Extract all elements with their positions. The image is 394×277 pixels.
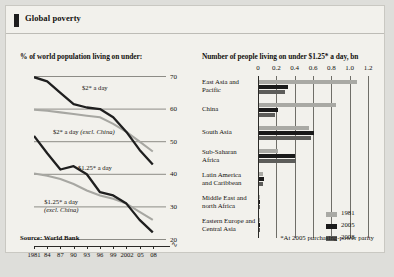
legend-swatch-1981 bbox=[326, 212, 337, 217]
left-x-tick-84: 84 bbox=[44, 251, 51, 258]
right-x-tick-08: 0.8 bbox=[327, 64, 336, 72]
bar-latin-america-1981 bbox=[259, 172, 263, 176]
left-y-tick-50: 50 bbox=[170, 138, 177, 146]
right-x-tick-0: 0 bbox=[256, 64, 260, 72]
left-x-tick-2002: 2002 bbox=[120, 251, 133, 258]
right-chart: Number of people living on under $1.25* … bbox=[202, 52, 378, 248]
bar-sub-saharan-2005 bbox=[259, 154, 295, 158]
category-label-china: China bbox=[202, 105, 258, 113]
series-label-2-dollar-excl-china: $2* a day (excl. China) bbox=[53, 128, 115, 136]
header-divider bbox=[6, 33, 384, 34]
footnote-label: *At 2005 purchasing-power parity bbox=[280, 234, 374, 241]
left-chart-svg bbox=[34, 70, 166, 246]
bar-south-asia-1981 bbox=[259, 126, 309, 130]
series-label-2-dollar: $2* a day bbox=[82, 84, 108, 92]
category-label-latin-america: Latin America and Caribbean bbox=[202, 171, 258, 188]
left-x-tick-93: 93 bbox=[84, 251, 91, 258]
bar-middle-east-2008 bbox=[259, 205, 260, 209]
bar-china-2008 bbox=[259, 113, 275, 117]
category-label-sub-saharan: Sub-Saharan Africa bbox=[202, 148, 258, 165]
bar-middle-east-2005 bbox=[259, 200, 260, 204]
bar-east-asia-2005 bbox=[259, 85, 288, 89]
legend-label-1981: 1981 bbox=[341, 209, 355, 216]
right-x-tick-06: 0.6 bbox=[309, 64, 318, 72]
series-label-2-dollar-excl-main: $2* a day bbox=[53, 128, 80, 135]
category-label-south-asia: South Asia bbox=[202, 128, 258, 136]
source-label: Source: World Bank bbox=[20, 234, 79, 241]
right-x-tick-04: 0.4 bbox=[290, 64, 299, 72]
left-y-tick-40: 40 bbox=[170, 170, 177, 178]
left-x-tick-90: 90 bbox=[70, 251, 77, 258]
title-marker-icon bbox=[14, 14, 19, 27]
left-x-tick-99: 99 bbox=[110, 251, 117, 258]
axis-break-icon: ∿ bbox=[171, 240, 178, 249]
bar-china-2005 bbox=[259, 108, 278, 112]
left-x-tick-05: 05 bbox=[137, 251, 144, 258]
left-chart-heading: % of world population living on under: bbox=[20, 52, 142, 61]
page-title: Global poverty bbox=[25, 13, 81, 23]
category-label-eastern-europe: Eastern Europe and Central Asia bbox=[202, 217, 264, 234]
bar-latin-america-2008 bbox=[259, 182, 263, 186]
left-x-tick-1981: 1981 bbox=[27, 251, 40, 258]
series-label-125-dollar: $1.25* a day bbox=[78, 164, 112, 172]
left-x-tick-08: 08 bbox=[150, 251, 157, 258]
left-x-axis bbox=[34, 246, 170, 247]
series-label-2-dollar-excl-italic: (excl. China) bbox=[80, 128, 114, 135]
left-y-tick-60: 60 bbox=[170, 105, 177, 113]
legend-label-2005: 2005 bbox=[341, 221, 355, 228]
legend-swatch-2005 bbox=[326, 224, 337, 229]
series-label-125-excl-italic: (excl. China) bbox=[44, 206, 78, 213]
right-x-tick-10: 1.0 bbox=[345, 64, 354, 72]
bar-south-asia-2005 bbox=[259, 131, 314, 135]
right-x-tick-12: 1.2 bbox=[364, 64, 373, 72]
left-chart: % of world population living on under: bbox=[20, 52, 190, 248]
bar-south-asia-2008 bbox=[259, 136, 311, 140]
bar-sub-saharan-2008 bbox=[259, 159, 296, 163]
left-x-tick-96: 96 bbox=[97, 251, 104, 258]
bar-china-1981 bbox=[259, 103, 336, 107]
left-x-tick-87: 87 bbox=[57, 251, 64, 258]
bar-east-asia-2008 bbox=[259, 90, 285, 94]
series-label-125-excl-china: $1.25* a day (excl. China) bbox=[44, 198, 78, 213]
left-chart-plot bbox=[34, 70, 166, 246]
bar-latin-america-2005 bbox=[259, 177, 264, 181]
right-x-tick-02: 0.2 bbox=[272, 64, 281, 72]
bar-middle-east-1981 bbox=[259, 195, 260, 199]
bar-sub-saharan-1981 bbox=[259, 149, 278, 153]
category-label-east-asia: East Asia and Pacific bbox=[202, 78, 258, 95]
left-y-tick-30: 30 bbox=[170, 203, 177, 211]
right-chart-heading: Number of people living on under $1.25* … bbox=[202, 52, 358, 61]
category-label-middle-east: Middle East and north Africa bbox=[202, 194, 258, 211]
screenshot-root: Global poverty % of world population liv… bbox=[0, 0, 394, 277]
series-label-125-excl-main: $1.25* a day bbox=[44, 198, 78, 205]
bar-east-asia-1981 bbox=[259, 80, 357, 84]
chart-card: Global poverty % of world population liv… bbox=[6, 6, 384, 252]
left-y-tick-70: 70 bbox=[170, 73, 177, 81]
